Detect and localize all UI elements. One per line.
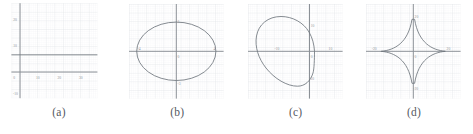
caption-b: (b) [170, 107, 184, 119]
tick-label-b-origin: 0 [178, 55, 180, 59]
caption-d: (d) [407, 107, 421, 119]
tick-label-d-x-20: 20 [447, 47, 451, 51]
plot-area-b: 0 -4 4 3 -3 [127, 0, 227, 104]
tick-label-a-x-30: 30 [79, 76, 83, 80]
tick-label-a-x-10: 10 [36, 76, 40, 80]
tick-label-c-x-neg10: -10 [274, 47, 279, 51]
tick-label-c-x-10: 10 [328, 47, 332, 51]
tick-label-d-y-20: 20 [415, 15, 419, 19]
caption-c: (c) [289, 107, 302, 119]
tick-label-d-y-neg20: -20 [413, 87, 418, 91]
tick-label-b-y-3: 3 [178, 20, 180, 24]
plot-area-d: 0 -20 20 20 -20 [364, 0, 464, 104]
tick-label-a-x-20: 20 [58, 76, 62, 80]
figure-panel-c: 0 -10 10 10 -10 (c) [237, 0, 355, 134]
tick-label-a-y-neg: -10 [13, 92, 18, 96]
figure-panel-d: 0 -20 20 20 -20 (d) [355, 0, 473, 134]
tick-label-b-x-neg4: -4 [138, 47, 141, 51]
tick-label-b-y-neg3: -3 [178, 82, 181, 86]
plot-area-a: 0 10 20 30 20 10 -10 [9, 0, 109, 104]
tick-label-b-x-4: 4 [214, 47, 216, 51]
tick-label-d-x-neg20: -20 [372, 47, 377, 51]
tick-label-c-origin: 0 [310, 55, 312, 59]
tick-label-a-y-20: 20 [13, 18, 17, 22]
tick-label-c-y-neg10: -10 [309, 77, 314, 81]
figure-panel-a: 0 10 20 30 20 10 -10 (a) [0, 0, 118, 134]
figure-panel-row: 0 10 20 30 20 10 -10 (a) [0, 0, 473, 134]
major-grid-a [11, 3, 97, 98]
tick-label-a-origin: 0 [13, 76, 15, 80]
caption-a: (a) [52, 107, 65, 119]
tick-label-d-origin: 0 [415, 55, 417, 59]
tick-label-a-y-10: 10 [13, 44, 17, 48]
plot-area-c: 0 -10 10 10 -10 [246, 0, 346, 104]
tick-label-c-y-10: 10 [310, 24, 314, 28]
figure-panel-b: 0 -4 4 3 -3 (b) [118, 0, 236, 134]
